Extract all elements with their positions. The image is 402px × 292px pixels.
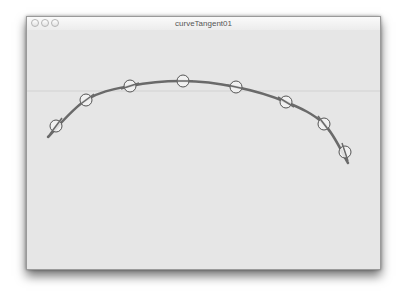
- curve-plot: [0, 0, 402, 292]
- curve-path: [48, 81, 348, 163]
- tangent-markers: [50, 75, 351, 161]
